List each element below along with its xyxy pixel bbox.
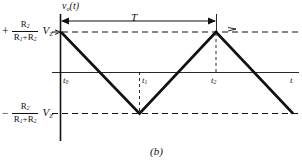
upper-amplitude-multiplier: VZ [40,25,53,38]
lower-amplitude-label: − R2 R1+R2 VZ [2,102,53,125]
lower-amplitude-numerator: R2 [19,102,32,113]
tick-label-t1: t1 [142,76,147,86]
upper-amplitude-label: + R2 R1+R2 VZ [2,20,53,43]
lower-amplitude-multiplier: VZ [40,107,53,120]
tick-label-t2: t2 [211,76,216,86]
waveform-figure: vo(t) T + R2 R1+R2 VZ − R2 R1+R2 VZ t0 t… [0,0,302,164]
upper-amplitude-fraction: R2 R1+R2 [12,20,39,43]
peak-marker-tick [228,28,236,32]
lower-amplitude-fraction: R2 R1+R2 [12,102,39,125]
period-label: T [131,12,137,23]
lower-amplitude-sign: − [2,106,10,121]
figure-caption: (b) [150,145,163,157]
upper-amplitude-numerator: R2 [19,20,32,31]
tick-label-t0: t0 [63,76,68,86]
lower-amplitude-denominator: R1+R2 [12,113,39,125]
period-arrow-head-left [61,18,69,25]
upper-amplitude-sign: + [2,24,10,39]
upper-amplitude-denominator: R1+R2 [12,31,39,43]
x-axis-label: t [290,76,293,85]
period-arrow-head-right [208,18,216,25]
y-axis-label: vo(t) [62,1,79,12]
y-axis-label-arg: (t) [70,0,79,11]
